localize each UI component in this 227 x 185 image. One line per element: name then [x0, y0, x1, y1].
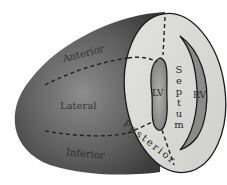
label-septum: Septum — [174, 64, 184, 130]
label-lv: LV — [152, 88, 163, 98]
label-lateral: Lateral — [60, 100, 96, 111]
label-rv: RV — [193, 90, 206, 100]
